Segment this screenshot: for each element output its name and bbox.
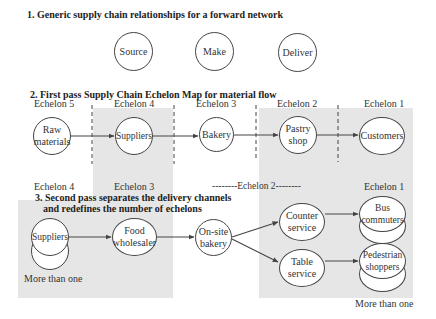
section2-arrows	[71, 135, 358, 136]
section3-arrows	[69, 214, 358, 262]
connector-lines	[0, 0, 436, 319]
echelon-dividers	[92, 105, 338, 164]
